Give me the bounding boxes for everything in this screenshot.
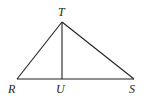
segment-TS xyxy=(62,22,134,79)
label-R: R xyxy=(7,82,16,96)
label-U: U xyxy=(56,82,66,96)
triangle-diagram: T R U S xyxy=(0,0,146,107)
label-T: T xyxy=(58,5,66,19)
label-S: S xyxy=(129,82,135,96)
segment-RT xyxy=(17,22,62,79)
